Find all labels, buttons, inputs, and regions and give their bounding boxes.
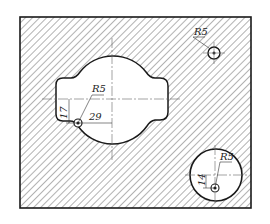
left-radius-label: R5: [91, 83, 106, 94]
technical-drawing: R5 R5 17 29 R5 14: [0, 0, 270, 224]
left-vertical-dim: 17: [58, 106, 69, 119]
top-right-radius-label: R5: [193, 26, 208, 37]
bottom-radius-label: R5: [219, 151, 234, 162]
hatched-plate: [20, 17, 251, 208]
bottom-vertical-dim: 14: [196, 173, 207, 186]
left-horizontal-dim: 29: [88, 111, 102, 122]
